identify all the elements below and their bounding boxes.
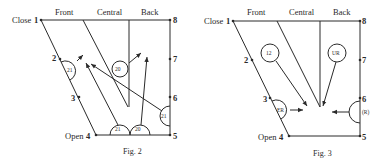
point-label-7: 7 bbox=[362, 55, 367, 65]
figure-3: Front Central Back Close 1 8 2 3 7 6 Ope… bbox=[204, 7, 370, 158]
header-front: Front bbox=[55, 7, 74, 17]
point-label-2: 2 bbox=[52, 53, 56, 63]
figure-caption: Fig. 2 bbox=[123, 147, 142, 156]
point-label-3: 3 bbox=[263, 94, 267, 104]
symbol-right: (R) bbox=[362, 109, 370, 116]
point-label-5: 5 bbox=[362, 132, 366, 142]
point-label-2: 2 bbox=[244, 55, 248, 65]
symbol-bottom-left: 21 bbox=[115, 126, 121, 132]
arrow bbox=[323, 62, 336, 106]
header-back: Back bbox=[141, 7, 159, 17]
point-label-6: 6 bbox=[173, 93, 177, 103]
point-label-8: 8 bbox=[362, 16, 366, 26]
arrow bbox=[77, 55, 83, 61]
symbol-center: 20 bbox=[115, 66, 121, 72]
figure-2: Front Central Back Close 1 8 2 3 7 6 Ope… bbox=[12, 7, 178, 156]
arrow bbox=[276, 61, 307, 106]
open-label: Open bbox=[65, 131, 84, 141]
symbol-right: 21 bbox=[161, 113, 167, 119]
left-diagonal-edge bbox=[41, 20, 96, 135]
point-label-8: 8 bbox=[173, 15, 177, 25]
point-label-1: 1 bbox=[34, 15, 38, 25]
close-label: Close bbox=[12, 15, 32, 25]
header-front: Front bbox=[247, 7, 266, 17]
symbol-bottom-right: 20 bbox=[135, 126, 141, 132]
open-label: Open bbox=[258, 132, 277, 142]
left-diagonal-edge bbox=[233, 21, 289, 136]
point-label-4: 4 bbox=[86, 131, 91, 141]
header-back: Back bbox=[333, 7, 351, 17]
figure-caption: Fig. 3 bbox=[313, 149, 332, 158]
front-central-diagonal bbox=[83, 20, 128, 107]
header-central: Central bbox=[289, 7, 315, 17]
point-label-7: 7 bbox=[173, 54, 178, 64]
close-label: Close bbox=[204, 16, 224, 26]
point-label-6: 6 bbox=[362, 94, 366, 104]
arrow bbox=[129, 53, 141, 63]
point-label-1: 1 bbox=[226, 16, 230, 26]
point-label-5: 5 bbox=[173, 131, 177, 141]
arrow bbox=[141, 57, 147, 125]
symbol-left: ER bbox=[277, 107, 284, 113]
symbol-back: UR bbox=[332, 50, 340, 56]
half-circle-symbol-right bbox=[349, 101, 360, 123]
symbol-left: 21 bbox=[67, 67, 73, 73]
symbol-front: 12 bbox=[266, 50, 272, 56]
point-label-4: 4 bbox=[279, 132, 284, 142]
header-central: Central bbox=[97, 7, 123, 17]
point-label-3: 3 bbox=[71, 93, 75, 103]
